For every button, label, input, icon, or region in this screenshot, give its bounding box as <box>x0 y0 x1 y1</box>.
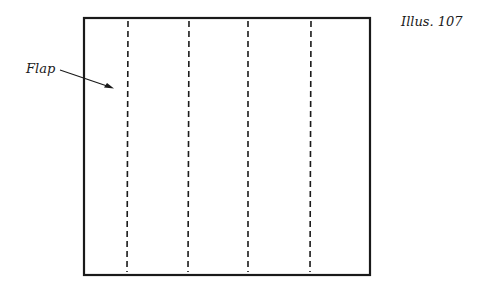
fold-line-1 <box>127 21 128 272</box>
flap-label: Flap <box>26 61 55 76</box>
illustration-number: Illus. 107 <box>401 14 463 29</box>
fold-line-4 <box>310 21 311 272</box>
flap-arrow-icon <box>60 70 114 89</box>
fold-line-2 <box>188 21 189 272</box>
diagram-canvas <box>0 0 491 287</box>
